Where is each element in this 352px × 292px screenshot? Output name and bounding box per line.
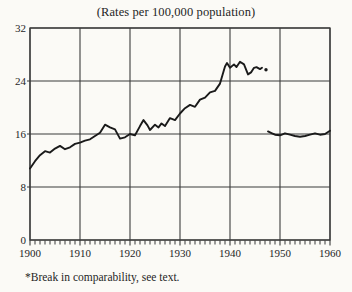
x-axis-labels: 1900191019201930194019501960 [19, 247, 342, 259]
y-axis-labels: 08162432 [15, 22, 27, 246]
x-axis-label-1960: 1960 [319, 247, 342, 259]
y-axis-label-16: 16 [15, 128, 27, 140]
x-axis-label-1920: 1920 [119, 247, 142, 259]
chart-footnote: *Break in comparability, see text. [25, 270, 179, 284]
y-axis-label-32: 32 [15, 22, 26, 34]
series-pre-break-line [30, 62, 262, 169]
x-axis-label-1910: 1910 [69, 247, 92, 259]
y-axis-label-8: 8 [21, 181, 27, 193]
x-axis-label-1950: 1950 [269, 247, 292, 259]
chart-figure: (Rates per 100,000 population) 081624321… [0, 0, 352, 292]
x-axis-label-1900: 1900 [19, 247, 42, 259]
x-axis-label-1930: 1930 [169, 247, 192, 259]
y-axis-label-0: 0 [21, 234, 27, 246]
y-axis-label-24: 24 [15, 75, 27, 87]
x-axis-label-1940: 1940 [219, 247, 242, 259]
break-marker-dot [264, 68, 267, 71]
grid-layer [27, 28, 330, 246]
line-chart-plot: 081624321900191019201930194019501960 [0, 0, 352, 292]
